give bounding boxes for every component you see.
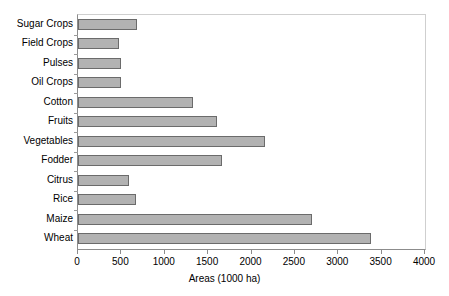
y-axis-category-label: Rice — [0, 194, 73, 204]
x-axis-title: Areas (1000 ha) — [0, 273, 449, 285]
x-axis-tick — [207, 249, 208, 254]
bar-row — [78, 136, 425, 147]
bar — [78, 77, 121, 88]
y-axis-tick — [74, 171, 78, 172]
y-axis-category-label: Wheat — [0, 233, 73, 243]
x-axis-tick-label: 1500 — [196, 256, 218, 267]
y-axis-tick — [74, 191, 78, 192]
x-axis-ticks — [77, 249, 425, 255]
y-axis-tick — [74, 210, 78, 211]
x-axis-tick-label: 3500 — [370, 256, 392, 267]
y-axis-tick — [74, 152, 78, 153]
x-axis-tick-label: 2000 — [239, 256, 261, 267]
bar — [78, 97, 193, 108]
x-axis-tick-label: 1000 — [153, 256, 175, 267]
bar — [78, 19, 137, 30]
y-axis-category-label: Citrus — [0, 175, 73, 185]
y-axis-category-label: Fodder — [0, 155, 73, 165]
y-axis-tick — [74, 132, 78, 133]
y-axis-category-label: Maize — [0, 214, 73, 224]
y-axis-tick — [74, 113, 78, 114]
y-axis-tick — [74, 54, 78, 55]
bar-row — [78, 155, 425, 166]
x-axis-tick — [381, 249, 382, 254]
y-axis-category-label: Fruits — [0, 116, 73, 126]
y-axis-category-label: Field Crops — [0, 38, 73, 48]
y-axis-category-label: Sugar Crops — [0, 19, 73, 29]
bar-row — [78, 116, 425, 127]
bar-row — [78, 233, 425, 244]
x-axis-tick-label: 4000 — [413, 256, 435, 267]
x-axis-tick — [251, 249, 252, 254]
y-axis-category-label: Pulses — [0, 58, 73, 68]
bar-row — [78, 214, 425, 225]
y-axis-tick — [74, 74, 78, 75]
x-axis-tick — [424, 249, 425, 254]
x-axis-tick — [294, 249, 295, 254]
x-axis-tick-label: 3000 — [326, 256, 348, 267]
y-axis-tick — [74, 230, 78, 231]
bar — [78, 155, 222, 166]
x-axis-tick — [164, 249, 165, 254]
x-axis-tick-label: 500 — [112, 256, 129, 267]
y-axis-labels: Sugar CropsField CropsPulsesOil CropsCot… — [0, 14, 73, 248]
bar — [78, 116, 217, 127]
x-axis-tick-labels: 05001000150020002500300035004000 — [0, 256, 449, 270]
y-axis-tick — [74, 93, 78, 94]
x-axis-tick — [120, 249, 121, 254]
bar — [78, 38, 119, 49]
x-axis-tick — [337, 249, 338, 254]
bar-chart-figure: Sugar CropsField CropsPulsesOil CropsCot… — [0, 0, 449, 296]
bar — [78, 214, 312, 225]
x-axis-tick — [77, 249, 78, 254]
bar-row — [78, 175, 425, 186]
bar-row — [78, 77, 425, 88]
bar-row — [78, 38, 425, 49]
bar — [78, 194, 136, 205]
y-axis-tick — [74, 35, 78, 36]
bar — [78, 58, 121, 69]
bar — [78, 233, 371, 244]
x-axis-tick-label: 2500 — [283, 256, 305, 267]
bar — [78, 175, 129, 186]
bar-row — [78, 58, 425, 69]
bar — [78, 136, 265, 147]
bar-row — [78, 97, 425, 108]
y-axis-category-label: Vegetables — [0, 136, 73, 146]
bar-row — [78, 194, 425, 205]
y-axis-category-label: Cotton — [0, 97, 73, 107]
plot-area — [77, 14, 426, 250]
bar-row — [78, 19, 425, 30]
x-axis-tick-label: 0 — [74, 256, 80, 267]
y-axis-category-label: Oil Crops — [0, 77, 73, 87]
